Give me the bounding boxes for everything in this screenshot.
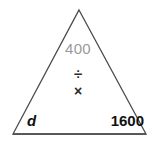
triangle-bottom-left-value: d: [27, 113, 36, 128]
multiply-operator-icon: ×: [0, 84, 156, 98]
triangle-bottom-right-value: 1600: [111, 113, 144, 128]
formula-triangle-figure: 400 ÷ × d 1600: [0, 0, 156, 143]
divide-operator-icon: ÷: [0, 66, 156, 81]
triangle-top-value: 400: [0, 41, 156, 56]
